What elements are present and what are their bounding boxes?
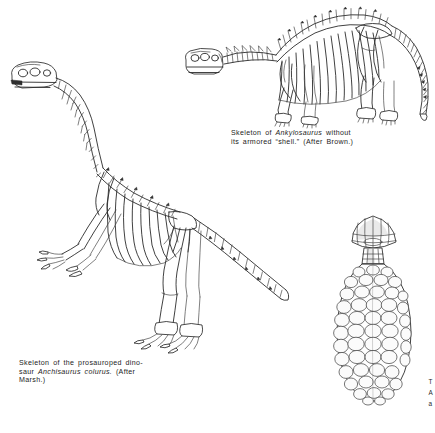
- edge-text-line-2: A: [428, 387, 433, 398]
- anchisaurus-drawing: [11, 62, 289, 353]
- caption-anchisaurus-line1: Skeleton of the prosauroped dino-: [19, 359, 153, 368]
- cone-apical-cap: [352, 216, 396, 248]
- ankylosaurus-tail: [390, 26, 428, 120]
- illustration-plate: Skeleton of Ankylosaurus without its arm…: [0, 0, 435, 433]
- caption-anchisaurus-line2-pre: saur: [19, 368, 38, 376]
- cycad-cone-drawing: [334, 216, 412, 405]
- anchisaurus-skull: [11, 62, 57, 88]
- edge-text-line-1: T: [428, 376, 433, 387]
- edge-text-line-3: a: [428, 398, 433, 409]
- edge-cut-off-text: T A a: [428, 376, 433, 409]
- anchisaurus-hindlimb: [134, 226, 203, 353]
- ankylosaurus-ribcage: [279, 31, 384, 105]
- anchisaurus-ribcage: [107, 183, 181, 266]
- anchisaurus-hand: [37, 251, 65, 269]
- caption-anchisaurus-species: Anchisaurus colurus.: [38, 368, 112, 376]
- figure-anchisaurus-skeleton: [4, 52, 294, 352]
- ankylosaurus-hindlimb: [356, 24, 398, 126]
- caption-anchisaurus: Skeleton of the prosauroped dino- saur A…: [19, 359, 153, 385]
- anchisaurus-spine: [96, 168, 180, 220]
- caption-ankylosaurus-line1-post: without: [322, 129, 351, 137]
- anchisaurus-neck: [54, 78, 103, 177]
- anchisaurus-tail: [192, 218, 289, 300]
- caption-anchisaurus-line3: Marsh.): [19, 376, 153, 385]
- caption-anchisaurus-line2-post: (After: [112, 368, 135, 376]
- figure-cycad-cone: [322, 206, 426, 406]
- cone-stalk: [362, 248, 384, 264]
- anchisaurus-forelimb: [37, 204, 121, 277]
